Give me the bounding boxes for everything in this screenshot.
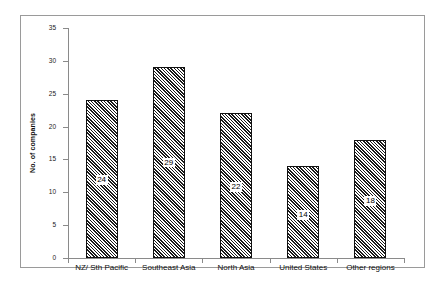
y-tick: 5	[63, 225, 68, 226]
bar-value-label: 24	[96, 175, 108, 184]
y-tick-label: 5	[52, 222, 56, 229]
y-tick-label: 10	[49, 189, 56, 196]
bar[interactable]: 22	[220, 113, 252, 258]
y-tick: 30	[63, 61, 68, 62]
bar-value-label: 29	[163, 158, 175, 167]
y-tick-label: 20	[49, 123, 56, 130]
bar[interactable]: 18	[354, 140, 386, 258]
y-tick: 35	[63, 28, 68, 29]
bar-value-label: 14	[297, 210, 309, 219]
x-tick	[202, 258, 203, 263]
y-tick-label: 25	[49, 90, 56, 97]
x-tick	[337, 258, 338, 263]
bar[interactable]: 24	[86, 100, 118, 258]
y-tick-label: 15	[49, 156, 56, 163]
bar[interactable]: 14	[287, 166, 319, 258]
x-category-label: NZ/ Sth Pacific	[75, 264, 128, 272]
x-tick	[404, 258, 405, 263]
y-tick: 20	[63, 127, 68, 128]
chart-figure: No. of companies 05101520253035 24292214…	[20, 15, 425, 268]
y-axis-title: No. of companies	[29, 113, 36, 173]
bar[interactable]: 29	[153, 67, 185, 258]
x-axis-line	[68, 258, 404, 259]
x-tick	[270, 258, 271, 263]
y-tick-label: 0	[52, 255, 56, 262]
plot-area: No. of companies 05101520253035 24292214…	[68, 28, 404, 258]
y-tick: 25	[63, 94, 68, 95]
y-tick-label: 30	[49, 58, 56, 65]
y-tick-label: 35	[49, 25, 56, 32]
bar-value-label: 18	[364, 196, 376, 205]
x-category-label: Southeast Asia	[142, 264, 195, 272]
x-tick	[68, 258, 69, 263]
x-category-label: Other regions	[346, 264, 394, 272]
x-category-label: United States	[279, 264, 327, 272]
x-tick	[135, 258, 136, 263]
y-tick: 15	[63, 159, 68, 160]
y-axis-line	[68, 28, 69, 258]
bar-value-label: 22	[230, 182, 242, 191]
y-tick: 10	[63, 192, 68, 193]
x-category-label: North Asia	[218, 264, 255, 272]
